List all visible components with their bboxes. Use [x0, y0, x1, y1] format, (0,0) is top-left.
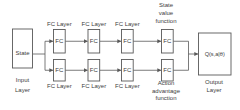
bottom-stream-group: FC FC FC FC FC Layer FC Layer FC Layer A… — [47, 60, 181, 102]
fc-layer-caption: FC Layer — [82, 21, 107, 27]
fc-box-label: FC — [163, 38, 172, 44]
state-value-function-caption-line2: value — [159, 10, 174, 16]
fc-box-label: FC — [123, 38, 132, 44]
fc-box-label: FC — [123, 67, 132, 73]
fc-box-label: FC — [55, 38, 64, 44]
architecture-diagram-canvas: State Input Layer FC FC FC FC FC Layer F… — [0, 0, 240, 110]
dueling-dqn-architecture-diagram: State Input Layer FC FC FC FC FC Layer F… — [0, 0, 240, 110]
input-layer-caption-line1: Input — [16, 77, 30, 83]
output-layer-caption-line1: Output — [205, 79, 223, 85]
fc-layer-caption: FC Layer — [82, 83, 107, 89]
fc-box-label: FC — [90, 38, 99, 44]
fc-layer-caption: FC Layer — [47, 83, 72, 89]
fc-box-label: FC — [90, 67, 99, 73]
action-advantage-function-caption-line3: function — [155, 95, 176, 101]
state-value-function-caption-line1: State — [159, 2, 174, 8]
fc-layer-caption: FC Layer — [115, 83, 140, 89]
action-advantage-function-caption-line1: Action — [158, 80, 175, 86]
fc-box-label: FC — [55, 67, 64, 73]
output-layer-caption-line2: Layer — [206, 87, 221, 93]
top-stream-group: FC FC FC FC FC Layer FC Layer FC Layer S… — [47, 2, 177, 53]
fc-box-label: FC — [163, 67, 172, 73]
input-layer-caption-line2: Layer — [15, 87, 30, 93]
state-value-function-caption-line3: function — [155, 18, 176, 24]
state-input-box — [13, 29, 33, 68]
action-advantage-function-caption-line2: advantage — [152, 88, 181, 94]
output-layer-group: Q(s,a|θ) Output Layer — [199, 33, 232, 93]
output-q-label: Q(s,a|θ) — [205, 51, 225, 57]
state-input-label: State — [15, 50, 30, 56]
fc-layer-caption: FC Layer — [115, 21, 140, 27]
fc-layer-caption: FC Layer — [47, 21, 72, 27]
input-layer-group: State Input Layer — [13, 29, 33, 93]
